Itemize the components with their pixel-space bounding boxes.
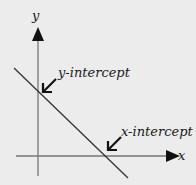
linear-function-line [14,68,128,178]
y-intercept-label: y-intercept [57,65,131,80]
y-axis-label: y [31,8,40,23]
y-axis-arrowhead-icon [32,27,44,41]
x-intercept-pointer-icon [108,137,121,150]
x-axis-label: x [178,148,186,163]
intercepts-diagram: y x y-intercept x-intercept [0,0,196,185]
y-intercept-pointer-icon [43,79,56,92]
x-intercept-label: x-intercept [121,124,193,139]
